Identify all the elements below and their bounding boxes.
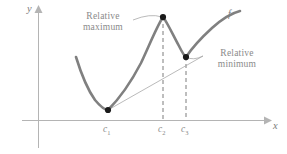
- annotation-relative-minimum-line1: Relative: [205, 48, 269, 59]
- point-c1-relative-minimum: [105, 107, 111, 113]
- tick-label-c2: c2: [158, 124, 165, 136]
- x-axis-label: x: [273, 120, 278, 131]
- annotation-relative-maximum-line2: maximum: [72, 22, 134, 33]
- plot-canvas: [0, 0, 287, 154]
- tick-label-c3-sub: 3: [185, 129, 188, 136]
- tick-label-c3: c3: [181, 124, 188, 136]
- annotation-relative-maximum: Relative maximum: [72, 11, 134, 33]
- leader-line-relative-maximum-c2: [133, 16, 162, 20]
- annotation-relative-maximum-line1: Relative: [72, 11, 134, 22]
- x-axis: [22, 117, 272, 125]
- relative-extrema-figure: Relative maximum Relative minimum y x f …: [0, 0, 287, 154]
- y-axis: [35, 5, 43, 148]
- tick-label-c1: c1: [103, 124, 110, 136]
- curve-label-f: f: [228, 8, 231, 19]
- tick-label-c2-sub: 2: [162, 129, 165, 136]
- tick-label-c1-sub: 1: [107, 129, 110, 136]
- annotation-relative-minimum: Relative minimum: [205, 48, 269, 70]
- point-c2-relative-maximum: [160, 14, 166, 20]
- leader-line-relative-minimum-c1: [108, 56, 203, 110]
- y-axis-label: y: [27, 3, 32, 14]
- x-axis-arrowhead: [264, 117, 272, 125]
- y-axis-arrowhead: [35, 5, 43, 13]
- point-c3-relative-minimum: [183, 54, 189, 60]
- annotation-relative-minimum-line2: minimum: [205, 59, 269, 70]
